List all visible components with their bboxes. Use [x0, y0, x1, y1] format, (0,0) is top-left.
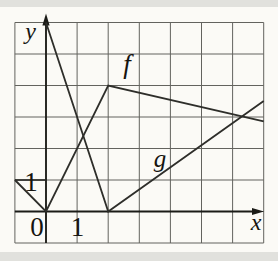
x-tick-label-1: 1 [71, 212, 85, 242]
y-tick-label-1: 1 [24, 167, 38, 197]
scan-shadow-bottom [0, 252, 278, 261]
plot-grid [15, 23, 264, 244]
y-axis-label: y [23, 18, 36, 44]
scan-shadow-top [0, 0, 278, 7]
origin-label: 0 [30, 212, 44, 242]
function-graph-figure: y x f g 0 1 1 [0, 0, 278, 261]
curve-g-label: g [154, 145, 167, 172]
x-axis-label: x [250, 209, 262, 235]
